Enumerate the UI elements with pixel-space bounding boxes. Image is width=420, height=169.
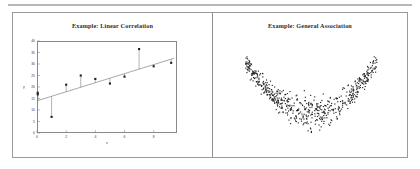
- x-tick-label: 0: [36, 135, 38, 139]
- panel-title-linear-correlation: Example: Linear Correlation: [13, 22, 212, 29]
- x-tick-label: 8: [153, 135, 155, 139]
- y-tick-label: 20: [31, 85, 35, 89]
- x-tick-label: 6: [124, 135, 126, 139]
- y-axis-label: y: [23, 85, 25, 89]
- linear-correlation-chart: 0510152025303540 02468 y x: [37, 41, 177, 133]
- y-tick-label: 30: [31, 62, 35, 66]
- figure-frame: Example: Linear Correlation 051015202530…: [12, 12, 408, 158]
- y-tick-label: 10: [31, 108, 35, 112]
- y-tick-label: 0: [33, 131, 35, 135]
- y-tick-label: 25: [31, 74, 35, 78]
- panel-general-association: Example: General Association: [213, 13, 407, 157]
- panel-linear-correlation: Example: Linear Correlation 051015202530…: [13, 13, 212, 157]
- figure-root: Example: Linear Correlation 051015202530…: [0, 0, 420, 169]
- y-tick-label: 40: [31, 39, 35, 43]
- x-axis-label: x: [106, 141, 108, 145]
- y-tick-label: 5: [33, 120, 35, 124]
- top-rule-divider: [8, 4, 412, 6]
- panel-title-general-association: Example: General Association: [213, 22, 407, 29]
- y-tick-label: 15: [31, 97, 35, 101]
- x-tick-label: 2: [65, 135, 67, 139]
- x-tick-label: 4: [94, 135, 96, 139]
- scatter-plot-svg: [37, 41, 177, 133]
- point-cloud-svg: [231, 39, 391, 139]
- y-tick-label: 35: [31, 51, 35, 55]
- general-association-chart: [231, 39, 391, 139]
